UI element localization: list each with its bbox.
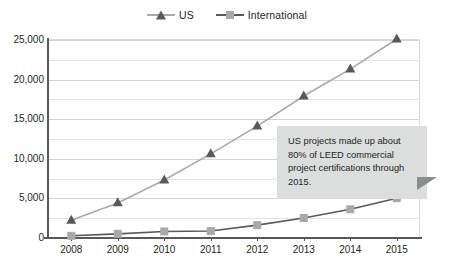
data-point-us[interactable] bbox=[252, 121, 262, 130]
y-axis-labels: 05,00010,00015,00020,00025,000 bbox=[0, 0, 44, 269]
x-axis-tick bbox=[164, 237, 165, 241]
x-axis-tick bbox=[211, 237, 212, 241]
legend-label-us: US bbox=[179, 9, 194, 21]
y-axis-tick-label: 15,000 bbox=[2, 113, 44, 124]
x-axis-tick bbox=[257, 237, 258, 241]
x-axis-tick-label: 2008 bbox=[60, 244, 82, 255]
annotation-callout: US projects made up about 80% of LEED co… bbox=[277, 126, 427, 199]
x-axis-tick bbox=[304, 237, 305, 241]
legend-label-international: International bbox=[248, 9, 307, 21]
y-axis-tick-label: 0 bbox=[2, 232, 44, 243]
x-axis-tick-label: 2013 bbox=[293, 244, 315, 255]
annotation-callout-tail-icon bbox=[417, 177, 437, 190]
legend-item-international[interactable]: International bbox=[216, 9, 307, 21]
y-axis-tick-label: 10,000 bbox=[2, 152, 44, 163]
data-point-us[interactable] bbox=[345, 64, 355, 73]
data-point-us[interactable] bbox=[392, 33, 402, 42]
y-axis-tick-label: 20,000 bbox=[2, 73, 44, 84]
x-axis-tick-label: 2010 bbox=[153, 244, 175, 255]
data-point-us[interactable] bbox=[206, 148, 216, 157]
x-axis-tick-label: 2014 bbox=[339, 244, 361, 255]
x-axis-tick-label: 2011 bbox=[200, 244, 222, 255]
y-axis-tick-label: 25,000 bbox=[2, 34, 44, 45]
chart-container: US International 05,00010,00015,00020,00… bbox=[0, 0, 454, 269]
square-marker-icon bbox=[216, 9, 244, 21]
chart-legend: US International bbox=[0, 9, 454, 21]
x-axis-tick-label: 2015 bbox=[386, 244, 408, 255]
data-point-international[interactable] bbox=[160, 227, 168, 235]
data-point-international[interactable] bbox=[67, 232, 75, 240]
data-point-us[interactable] bbox=[299, 90, 309, 99]
triangle-marker-icon bbox=[147, 9, 175, 21]
x-axis-tick bbox=[397, 237, 398, 241]
x-axis-line bbox=[44, 237, 422, 239]
x-axis-tick-label: 2012 bbox=[246, 244, 268, 255]
x-axis-tick bbox=[350, 237, 351, 241]
legend-item-us[interactable]: US bbox=[147, 9, 194, 21]
x-axis-tick-label: 2009 bbox=[107, 244, 129, 255]
data-point-international[interactable] bbox=[253, 221, 261, 229]
data-point-international[interactable] bbox=[346, 205, 354, 213]
y-axis-tick-label: 5,000 bbox=[2, 192, 44, 203]
data-point-international[interactable] bbox=[114, 230, 122, 238]
data-point-international[interactable] bbox=[300, 214, 308, 222]
data-point-international[interactable] bbox=[207, 227, 215, 235]
